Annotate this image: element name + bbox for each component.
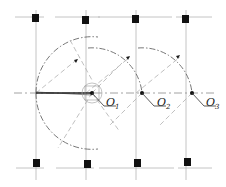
label-o3-sub: 3 xyxy=(215,103,219,111)
label-o1: O1 xyxy=(106,97,120,111)
radial-lines xyxy=(36,40,192,148)
label-o2-sub: 2 xyxy=(166,103,170,111)
label-o2-text: O xyxy=(157,96,166,109)
grid-lines xyxy=(15,10,212,180)
label-o3: O3 xyxy=(206,97,220,111)
label-o1-sub: 1 xyxy=(115,103,119,111)
label-o2: O2 xyxy=(157,97,171,111)
pile-squares xyxy=(32,14,191,168)
label-o3-text: O xyxy=(206,96,215,109)
pile-layout-diagram xyxy=(0,0,226,187)
label-o1-text: O xyxy=(106,96,115,109)
